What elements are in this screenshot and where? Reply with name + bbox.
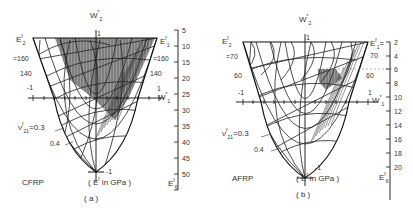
unit-note: ( Ef in GPa ) — [88, 178, 131, 187]
e6-tick-2: 2 — [394, 39, 398, 46]
e6-tick-12: 12 — [394, 108, 402, 115]
e6-tick-35: 35 — [182, 123, 190, 130]
axis-w2-min-label: -1 — [315, 164, 321, 171]
axis-w1-max-label: 1 — [368, 89, 372, 96]
e6-tick-4: 4 — [394, 53, 398, 60]
poisson-ratio-04-label: 0.4 — [50, 140, 60, 147]
e6-tick-8: 8 — [394, 80, 398, 87]
axis-w2-min-label: -1 — [106, 168, 112, 175]
axis-w2-max-label: 1 — [97, 30, 101, 37]
diagram-panel-cfrp: W*2 1 Ef2 Ef1 =160 140 -1 =160 140 1 W*1… — [0, 0, 206, 211]
e6-tick-18: 18 — [394, 150, 402, 157]
e6-tick-20: 20 — [182, 75, 190, 82]
e6-tick-20: 20 — [394, 164, 402, 171]
e2-label: Ef2 — [222, 38, 232, 46]
e6-tick-30: 30 — [182, 107, 190, 114]
e6-tick-40: 40 — [182, 139, 190, 146]
e1-contour-70: 70 — [370, 52, 378, 59]
material-label-cfrp: CFRP — [22, 178, 44, 187]
e6-tick-15: 15 — [182, 59, 190, 66]
axis-w2-label: W*2 — [299, 16, 311, 24]
e2-label: Ef2 — [16, 36, 26, 44]
axis-w2-max-label: 1 — [306, 34, 310, 41]
e6-tick-6: 6 — [394, 66, 398, 73]
e2-contour-60: 60 — [234, 72, 242, 79]
e1-contour-160: =160 — [153, 55, 169, 62]
e2-contour-70: =70 — [226, 53, 238, 60]
diagram-panel-afrp: W*2 1 Ef2 Ef1= =70 60 -1 70 60 1 W*1 -1 … — [206, 0, 412, 211]
e1-contour-140: 140 — [150, 70, 162, 77]
poisson-ratio-label: νf21=0.3 — [18, 124, 45, 132]
axis-w1-label: W*1 — [372, 97, 384, 105]
e6-tick-16: 16 — [394, 136, 402, 143]
poisson-ratio-04-label: 0.4 — [254, 146, 264, 153]
axis-w1-max-label: 1 — [157, 85, 161, 92]
panel-caption-a: ( a ) — [84, 194, 98, 203]
e6-tick-5: 5 — [182, 27, 186, 34]
unit-note: ( Ef in GPa ) — [296, 174, 339, 183]
material-label-afrp: AFRP — [232, 174, 253, 183]
e6-tick-25: 25 — [182, 91, 190, 98]
e6-tick-45: 45 — [182, 155, 190, 162]
axis-w1-min-label: -1 — [238, 89, 244, 96]
e1-contour-60: 60 — [366, 72, 374, 79]
axis-w1-min-label: -1 — [27, 84, 33, 91]
poisson-ratio-label: νf21=0.3 — [222, 130, 249, 138]
e2-contour-140: 140 — [20, 70, 32, 77]
e1-label: Ef1 — [160, 38, 170, 46]
e6-tick-10: 10 — [182, 43, 190, 50]
e6-label: Ef6 — [168, 180, 178, 188]
e6-tick-14: 14 — [394, 122, 402, 129]
e1-label: Ef1= — [370, 40, 384, 48]
panel-caption-b: ( b ) — [296, 190, 310, 199]
e6-tick-50: 50 — [182, 171, 190, 178]
axis-w2-label: W*2 — [90, 12, 102, 20]
axis-w1-label: W*1 — [158, 94, 170, 102]
e2-contour-160: =160 — [13, 55, 29, 62]
e6-label: Ef6 — [379, 174, 389, 182]
e6-tick-10: 10 — [394, 94, 402, 101]
